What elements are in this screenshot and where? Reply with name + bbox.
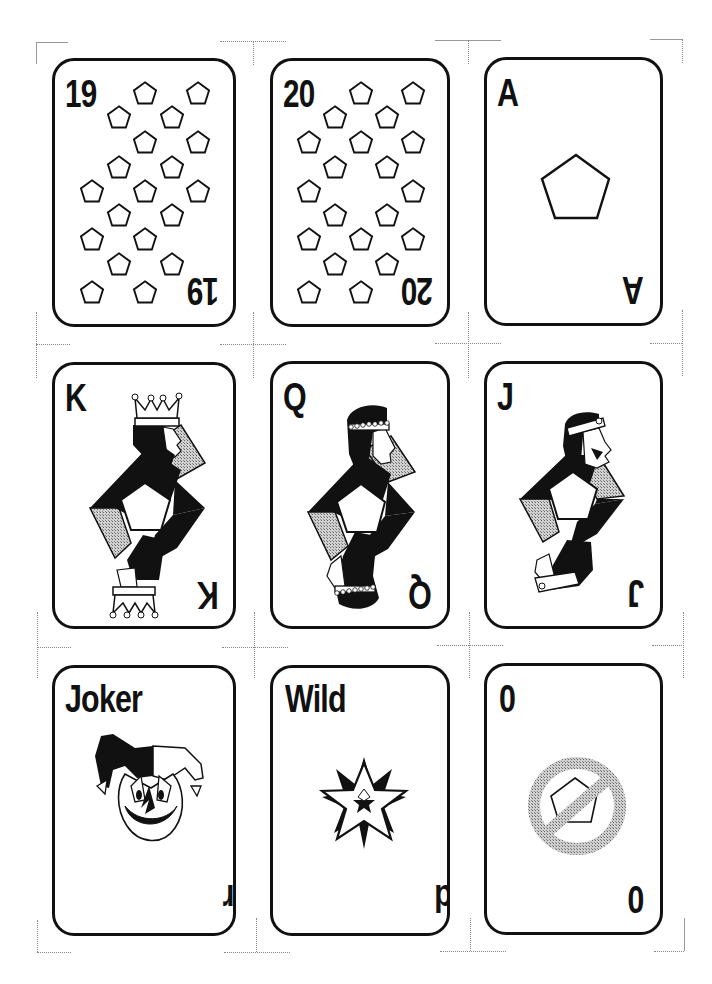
crop-mark [468, 312, 469, 378]
card-zero[interactable]: 0 0 [484, 663, 663, 935]
crop-mark [36, 42, 37, 64]
pentagon-pip-icon [487, 60, 663, 326]
crop-mark [253, 312, 254, 378]
crop-mark [440, 951, 506, 952]
crop-mark [222, 647, 288, 648]
card-19[interactable]: 19 19 [52, 58, 236, 327]
queen-figure-icon [273, 364, 450, 629]
crop-mark [468, 40, 469, 64]
pentagon-pips [55, 61, 236, 327]
crop-mark [37, 952, 71, 953]
card-wild[interactable]: Wild Wild [270, 665, 450, 936]
pentagon-pips [273, 61, 450, 327]
crop-mark [654, 951, 684, 952]
crop-mark [224, 952, 290, 953]
card-ace[interactable]: A A [484, 57, 663, 326]
king-figure-icon [55, 365, 236, 629]
crop-mark [682, 310, 683, 376]
crop-mark [253, 41, 254, 65]
crop-mark [254, 612, 255, 678]
card-sheet: 19 19 [0, 0, 712, 984]
crop-mark [37, 920, 38, 952]
no-pentagon-icon [487, 666, 663, 935]
crop-mark [682, 39, 683, 63]
crop-mark [256, 918, 257, 952]
card-queen[interactable]: Q Q [270, 361, 450, 629]
crop-mark [650, 39, 682, 40]
jack-figure-icon [487, 364, 663, 629]
card-20[interactable]: 20 20 [270, 58, 450, 327]
crop-mark [469, 612, 470, 678]
star-burst-icon [273, 668, 450, 936]
crop-mark [36, 42, 68, 43]
crop-mark [683, 612, 684, 678]
card-joker[interactable]: Joker Joker [52, 665, 236, 936]
crop-mark [36, 344, 70, 345]
crop-mark [37, 647, 71, 648]
card-jack[interactable]: J J [484, 361, 663, 629]
crop-mark [437, 645, 503, 646]
crop-mark [37, 612, 38, 678]
jester-face-icon [55, 668, 236, 936]
card-king[interactable]: K K [52, 362, 236, 629]
crop-mark [650, 343, 682, 344]
crop-mark [470, 918, 471, 951]
crop-mark [652, 645, 684, 646]
crop-mark [684, 918, 685, 951]
crop-mark [36, 312, 37, 378]
